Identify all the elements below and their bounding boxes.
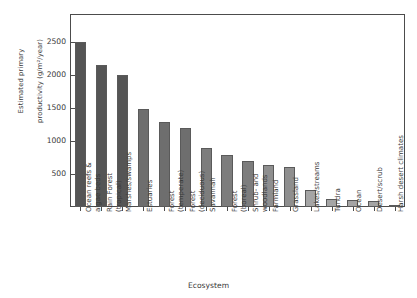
x-axis-tick [185,207,186,211]
y-axis-tick-label: 1000 [24,136,66,145]
x-axis-tick [206,207,207,211]
y-axis-tick-label: 500 [24,169,66,178]
x-axis-title: Ecosystem [0,281,417,290]
x-axis-tick [353,207,354,211]
x-axis-category-label: Desert/scrub [376,122,385,212]
x-axis-category-label: Farmland [272,122,281,212]
x-axis-tick [290,207,291,211]
x-axis-category-label: Ocean [355,122,364,212]
x-axis-tick [164,207,165,211]
x-axis-category-label: Estuaries [146,122,155,212]
x-axis-category-label: Forest (deciduous) [189,122,206,212]
x-axis-tick [311,207,312,211]
y-axis-tick-label: 2500 [24,37,66,46]
x-axis-category-label: Lakes/streams [313,122,322,212]
bar-chart: Estimated primary productivity (g/m²/yea… [0,0,417,298]
x-axis-tick [374,207,375,211]
y-axis-tick-label: 2000 [24,70,66,79]
x-axis-tick [227,207,228,211]
x-axis-category-label: Forest (boreal) [231,122,248,212]
x-axis-tick [143,207,144,211]
y-axis-tick-label: 1500 [24,103,66,112]
x-axis-tick [332,207,333,211]
x-axis-category-label: Savannah [209,122,218,212]
x-axis-tick [395,207,396,211]
y-axis-title: Estimated primary productivity (g/m²/yea… [7,11,45,151]
x-axis-category-label: Grassland [292,122,301,212]
x-axis-category-label: Tundra [334,122,343,212]
x-axis-category-label: Shrub- and woodlands [252,122,269,212]
x-axis-category-label: Harsh desert climates [397,122,406,212]
x-axis-category-label: Rain Forest (tropical) [106,122,123,212]
x-axis-category-label: Forest (temperate) [168,122,185,212]
x-axis-category-label: Ocean reefs & algae beds [85,122,102,212]
x-axis-category-label: Marshes/swamps [125,122,134,212]
x-axis-tick [80,207,81,211]
